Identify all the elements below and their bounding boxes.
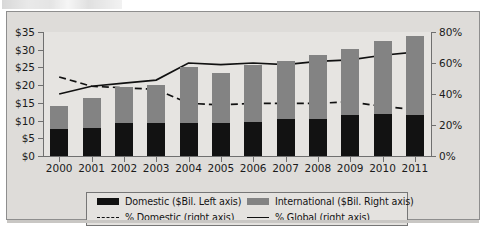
bar-segment-domestic: [83, 128, 101, 156]
left-axis-tick-label: $15: [7, 97, 35, 109]
bar-segment-international: [406, 36, 424, 115]
bar-segment-international: [277, 61, 295, 119]
left-axis-tick: [38, 103, 43, 104]
bar-segment-international: [83, 98, 101, 128]
left-axis-tick: [38, 156, 43, 157]
bar-segment-domestic: [406, 115, 424, 156]
left-axis-tick-label: $25: [7, 61, 35, 73]
bar-segment-international: [147, 85, 165, 123]
line-global: [59, 52, 415, 94]
left-axis-tick: [38, 85, 43, 86]
legend-label-domestic: Domestic ($Bil. Left axis): [125, 196, 241, 207]
bar-segment-domestic: [115, 123, 133, 156]
left-axis-tick: [38, 121, 43, 122]
left-axis-tick-label: $0: [7, 150, 35, 162]
stacked-bar: [341, 49, 359, 156]
right-axis-tick-label: 40%: [439, 88, 479, 100]
bar-segment-domestic: [341, 115, 359, 156]
left-axis-tick-label: $20: [7, 79, 35, 91]
bar-segment-domestic: [147, 123, 165, 156]
right-axis-tick: [431, 63, 436, 64]
stacked-bar: [212, 73, 230, 156]
bar-segment-international: [374, 41, 392, 114]
right-axis-tick-label: 20%: [439, 119, 479, 131]
right-axis-tick-label: 60%: [439, 57, 479, 69]
bar-segment-international: [180, 67, 198, 122]
stacked-bar: [50, 106, 68, 156]
left-axis-tick-label: $30: [7, 44, 35, 56]
bar-segment-domestic: [309, 119, 327, 156]
legend-label-pct-global: % Global (right axis): [275, 212, 370, 223]
legend-item-pct-global: % Global (right axis): [247, 212, 370, 223]
left-axis-tick-label: $35: [7, 26, 35, 38]
left-axis-tick: [38, 32, 43, 33]
scan-artifact: [2, 0, 122, 9]
left-axis-tick-label: $5: [7, 132, 35, 144]
bar-segment-international: [341, 49, 359, 115]
bar-segment-domestic: [374, 114, 392, 156]
gray-swatch-icon: [247, 198, 269, 205]
left-axis-tick-label: $10: [7, 115, 35, 127]
stacked-bar: [83, 98, 101, 156]
left-axis-tick: [38, 67, 43, 68]
legend-label-pct-domestic: % Domestic (right axis): [125, 212, 234, 223]
legend-label-international: International ($Bil. Right axis): [275, 196, 414, 207]
legend-item-pct-domestic: % Domestic (right axis): [97, 212, 234, 223]
bar-segment-domestic: [244, 122, 262, 156]
right-axis-tick: [431, 156, 436, 157]
left-axis-tick: [38, 138, 43, 139]
bar-segment-domestic: [50, 129, 68, 156]
left-axis-tick: [38, 50, 43, 51]
line-domestic-pct: [59, 77, 415, 110]
stacked-bar: [180, 67, 198, 156]
chart-legend: Domestic ($Bil. Left axis) International…: [86, 192, 408, 226]
chart-figure: 2000200120022003200420052006200720082009…: [0, 0, 487, 232]
bar-segment-domestic: [212, 123, 230, 156]
chart-card: 2000200120022003200420052006200720082009…: [6, 11, 480, 220]
bar-segment-international: [50, 106, 68, 129]
legend-item-international: International ($Bil. Right axis): [247, 196, 414, 207]
bar-segment-international: [309, 55, 327, 119]
bar-segment-domestic: [277, 119, 295, 156]
bar-segment-international: [212, 73, 230, 123]
stacked-bar: [244, 65, 262, 156]
dashed-line-icon: [97, 217, 119, 218]
bar-segment-domestic: [180, 123, 198, 156]
legend-item-domestic: Domestic ($Bil. Left axis): [97, 196, 241, 207]
stacked-bar: [309, 55, 327, 156]
right-axis-tick: [431, 125, 436, 126]
right-axis-tick-label: 80%: [439, 26, 479, 38]
right-axis-tick: [431, 94, 436, 95]
black-swatch-icon: [97, 198, 119, 205]
stacked-bar: [406, 36, 424, 156]
stacked-bar: [147, 85, 165, 156]
stacked-bar: [115, 87, 133, 156]
right-axis-tick: [431, 32, 436, 33]
stacked-bar: [277, 61, 295, 156]
bar-segment-international: [115, 87, 133, 123]
stacked-bar: [374, 41, 392, 156]
right-axis-tick-label: 0%: [439, 150, 479, 162]
x-axis-tick-label: 2011: [395, 162, 435, 174]
bar-segment-international: [244, 65, 262, 122]
solid-line-icon: [247, 217, 269, 218]
